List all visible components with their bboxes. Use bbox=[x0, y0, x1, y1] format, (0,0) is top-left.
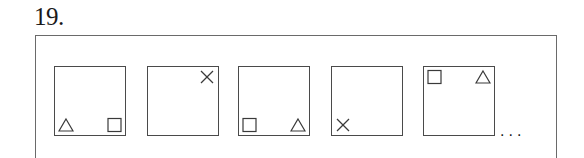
sequence-panel-3 bbox=[238, 66, 310, 136]
triangle-icon bbox=[475, 69, 491, 85]
sequence-panel-4 bbox=[331, 66, 403, 136]
square-icon bbox=[427, 69, 443, 85]
sequence-panel-2 bbox=[147, 66, 219, 136]
cross-icon bbox=[335, 117, 351, 133]
continuation-ellipsis: ... bbox=[500, 122, 525, 140]
sequence-panel-1 bbox=[54, 66, 126, 136]
cross-icon bbox=[199, 69, 215, 85]
square-icon bbox=[106, 117, 122, 133]
triangle-icon bbox=[58, 117, 74, 133]
question-number: 19. bbox=[34, 3, 64, 31]
sequence-panel-5 bbox=[423, 66, 495, 136]
triangle-icon bbox=[290, 117, 306, 133]
square-icon bbox=[242, 117, 258, 133]
